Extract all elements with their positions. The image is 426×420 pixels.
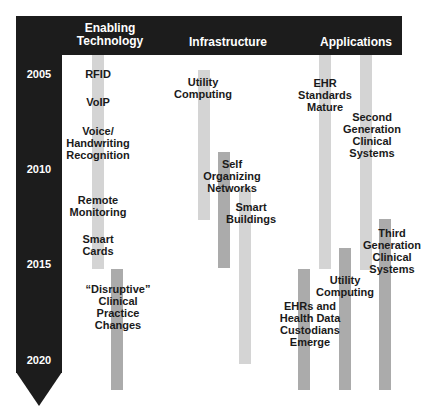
label-line: Buildings [216, 213, 286, 225]
label-line: Second [332, 111, 412, 123]
column-header-enabling-technology: Enabling Technology [70, 22, 150, 48]
label-line: Health Data [270, 312, 350, 324]
label-rfid: RFID [68, 68, 128, 80]
label-line: Standards [290, 89, 360, 101]
header-line: Technology [70, 35, 150, 48]
label-line: Generation [352, 239, 426, 251]
label-line: EHR [290, 77, 360, 89]
label-line: Generation [332, 123, 412, 135]
year-2005: 2005 [16, 68, 62, 80]
label-smart-buildings: Smart Buildings [216, 201, 286, 225]
label-utility-computing-apps: Utility Computing [310, 274, 380, 298]
year-2020: 2020 [16, 354, 62, 366]
label-line: Computing [168, 88, 238, 100]
label-line: Clinical [78, 295, 158, 307]
label-line: Clinical [352, 251, 426, 263]
label-line: Utility [310, 274, 380, 286]
label-disruptive-practice: “Disruptive” Clinical Practice Changes [78, 283, 158, 331]
label-line: “Disruptive” [78, 283, 158, 295]
label-line: Recognition [58, 149, 138, 161]
label-voip: VoIP [68, 96, 128, 108]
label-line: Cards [68, 245, 128, 257]
label-line: Emerge [270, 336, 350, 348]
label-line: Changes [78, 319, 158, 331]
timeline-arrow-icon [16, 372, 62, 406]
column-header-applications: Applications [310, 36, 402, 49]
label-line: Remote [63, 194, 133, 206]
label-ehr-standards: EHR Standards Mature [290, 77, 360, 113]
label-line: Custodians [270, 324, 350, 336]
label-utility-computing-infra: Utility Computing [168, 76, 238, 100]
label-line: Networks [192, 182, 272, 194]
label-line: EHRs and [270, 300, 350, 312]
label-line: Practice [78, 307, 158, 319]
year-2010: 2010 [16, 163, 62, 175]
label-third-generation: Third Generation Clinical Systems [352, 227, 426, 275]
label-line: Voice/ [58, 125, 138, 137]
label-remote-monitoring: Remote Monitoring [63, 194, 133, 218]
label-line: Utility [168, 76, 238, 88]
column-header-infrastructure: Infrastructure [178, 36, 278, 49]
label-smart-cards: Smart Cards [68, 233, 128, 257]
label-line: Self [192, 158, 272, 170]
label-line: Organizing [192, 170, 272, 182]
label-line: Computing [310, 286, 380, 298]
label-line: Smart [216, 201, 286, 213]
label-line: Monitoring [63, 206, 133, 218]
label-line: Clinical [332, 135, 412, 147]
label-line: Smart [68, 233, 128, 245]
label-line: Handwriting [58, 137, 138, 149]
label-line: Systems [332, 147, 412, 159]
label-self-organizing-networks: Self Organizing Networks [192, 158, 272, 194]
label-voice-handwriting: Voice/ Handwriting Recognition [58, 125, 138, 161]
year-2015: 2015 [16, 258, 62, 270]
label-second-generation: Second Generation Clinical Systems [332, 111, 412, 159]
label-line: Third [352, 227, 426, 239]
label-ehrs-custodians: EHRs and Health Data Custodians Emerge [270, 300, 350, 348]
